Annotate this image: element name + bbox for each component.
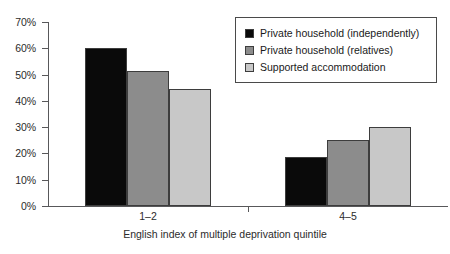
legend: Private household (independently) Privat… xyxy=(235,17,437,83)
light-gray-swatch-icon xyxy=(245,63,254,72)
y-axis-tick-label: 30% xyxy=(15,121,36,133)
y-axis-tick-label: 0% xyxy=(21,200,36,212)
legend-item[interactable]: Private household (relatives) xyxy=(245,42,428,58)
y-axis-tick-label: 70% xyxy=(15,16,36,28)
bar xyxy=(85,48,127,206)
bar xyxy=(327,140,369,206)
y-axis-tick-label: 50% xyxy=(15,69,36,81)
legend-item-label: Supported accommodation xyxy=(260,62,386,73)
bar xyxy=(369,127,411,206)
bar xyxy=(127,71,169,206)
legend-item-label: Private household (independently) xyxy=(260,28,419,39)
x-axis-tick-label: 4–5 xyxy=(339,210,357,222)
x-axis-title: English index of multiple deprivation qu… xyxy=(0,228,450,240)
bar-chart-figure: 0%10%20%30%40%50%60%70% 1–24–5 English i… xyxy=(0,0,450,254)
bar xyxy=(169,89,211,206)
y-axis-tick-label: 20% xyxy=(15,147,36,159)
bar xyxy=(285,157,327,206)
gray-swatch-icon xyxy=(245,46,254,55)
legend-item[interactable]: Supported accommodation xyxy=(245,59,428,75)
x-axis-tick xyxy=(248,206,249,212)
legend-item[interactable]: Private household (independently) xyxy=(245,25,428,41)
y-axis-tick-label: 40% xyxy=(15,95,36,107)
black-swatch-icon xyxy=(245,29,254,38)
y-axis-tick-label: 60% xyxy=(15,42,36,54)
legend-item-label: Private household (relatives) xyxy=(260,45,393,56)
x-axis-tick-label: 1–2 xyxy=(139,210,157,222)
y-axis-tick-label: 10% xyxy=(15,174,36,186)
